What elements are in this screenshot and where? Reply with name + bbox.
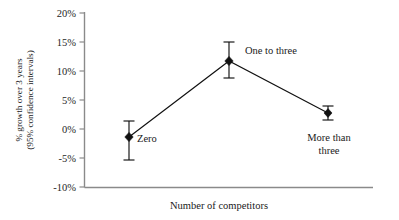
growth-vs-competitors-chart: % growth over 3 years (95% confidence in…	[0, 0, 399, 220]
y-tick-label-10: 10%	[57, 66, 77, 77]
y-axis-ticks	[80, 13, 85, 187]
data-point-zero	[124, 121, 135, 160]
point-label-more-than-three-line2: three	[319, 145, 340, 156]
marker-more-than-three	[324, 109, 332, 118]
point-label-zero: Zero	[137, 133, 157, 144]
data-point-one-to-three	[224, 42, 235, 78]
point-label-one-to-three: One to three	[245, 45, 297, 56]
y-axis-tick-labels: 20% 15% 10% 5% 0% -5% -10%	[53, 8, 76, 193]
y-axis-title: % growth over 3 years (95% confidence in…	[14, 50, 35, 150]
x-axis-title: Number of competitors	[170, 200, 268, 211]
marker-one-to-three	[225, 56, 233, 65]
y-axis-title-line1: % growth over 3 years	[14, 58, 24, 142]
chart-canvas: % growth over 3 years (95% confidence in…	[0, 0, 399, 220]
point-label-more-than-three-line1: More than	[307, 132, 351, 143]
point-label-more-than-three: More than three	[307, 132, 351, 156]
marker-zero	[125, 132, 133, 141]
data-point-more-than-three	[323, 106, 334, 120]
y-tick-label-15: 15%	[57, 37, 77, 48]
y-tick-label-5: 5%	[62, 95, 76, 106]
y-tick-label-neg5: -5%	[59, 153, 77, 164]
y-tick-label-20: 20%	[57, 8, 77, 19]
y-tick-label-neg10: -10%	[53, 182, 76, 193]
y-tick-label-0: 0%	[62, 124, 76, 135]
y-axis-title-line2: (95% confidence intervals)	[25, 50, 35, 150]
